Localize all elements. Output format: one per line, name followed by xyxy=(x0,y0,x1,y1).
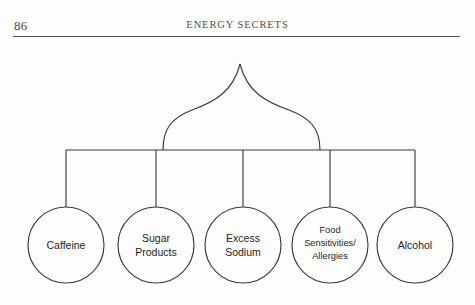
book-page: 86 ENERGY SECRETS xyxy=(0,0,475,305)
page-header: 86 ENERGY SECRETS xyxy=(0,0,475,40)
node-label-food-sensitivities-allergies-line1: Food xyxy=(319,225,340,235)
node-label-excess-sodium-line2: Sodium xyxy=(225,246,261,258)
header-rule xyxy=(13,36,460,37)
diagram-canvas: Caffeine Sugar Products Excess Sodium Fo… xyxy=(0,40,475,305)
node-circle-sugar-products[interactable] xyxy=(118,207,194,283)
running-title: ENERGY SECRETS xyxy=(0,20,475,31)
node-label-food-sensitivities-allergies-line3: Allergies xyxy=(312,251,348,261)
node-label-alcohol: Alcohol xyxy=(398,239,432,251)
tree-diagram: Caffeine Sugar Products Excess Sodium Fo… xyxy=(0,40,475,305)
node-label-caffeine: Caffeine xyxy=(47,239,86,251)
node-label-food-sensitivities-allergies-line2: Sensitivities/ xyxy=(304,238,356,248)
node-label-sugar-products-line1: Sugar xyxy=(142,232,171,244)
node-label-sugar-products-line2: Products xyxy=(135,246,176,258)
node-label-excess-sodium-line1: Excess xyxy=(226,232,260,244)
arch-curve-right xyxy=(240,64,320,150)
node-circle-excess-sodium[interactable] xyxy=(205,207,281,283)
arch-curve-left xyxy=(163,64,240,150)
